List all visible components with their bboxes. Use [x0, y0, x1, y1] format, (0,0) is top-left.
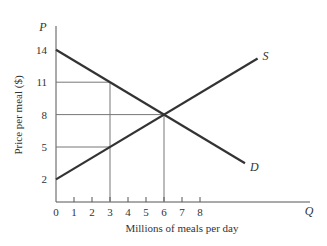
- y-tick-label: 14: [36, 44, 48, 56]
- x-axis-label: Millions of meals per day: [125, 222, 239, 234]
- reference-lines: [56, 82, 164, 201]
- axes: [56, 26, 310, 202]
- x-tick-label: 3: [107, 206, 113, 218]
- x-tick-label: 6: [161, 206, 167, 218]
- x-tick-label: 1: [71, 206, 77, 218]
- x-ticks: 012345678: [53, 197, 203, 218]
- x-tick-label: 2: [89, 206, 95, 218]
- y-tick-label: 5: [42, 141, 48, 153]
- demand-label: D: [249, 160, 259, 174]
- x-tick-label: 5: [143, 206, 149, 218]
- y-ticks: 2581114: [36, 44, 48, 186]
- y-axis-label: Price per meal ($): [12, 75, 25, 154]
- x-axis-symbol: Q: [305, 204, 314, 218]
- y-axis-symbol: P: [38, 20, 47, 34]
- demand-curve: [56, 50, 245, 163]
- x-tick-label: 0: [53, 206, 59, 218]
- x-tick-label: 8: [197, 206, 203, 218]
- y-tick-label: 11: [36, 76, 47, 88]
- x-tick-label: 4: [125, 206, 131, 218]
- y-tick-label: 8: [42, 109, 48, 121]
- y-tick-label: 2: [42, 173, 48, 185]
- x-tick-label: 7: [179, 206, 185, 218]
- supply-demand-chart: 012345678 2581114 SD P Q Millions of mea…: [0, 0, 327, 246]
- supply-curve: [56, 58, 258, 179]
- supply-label: S: [263, 49, 269, 63]
